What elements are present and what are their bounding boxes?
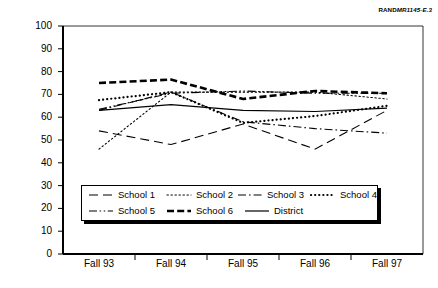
legend-item-school-1: School 1 bbox=[88, 187, 155, 203]
legend-line-swatch bbox=[310, 189, 336, 201]
series-lines-group bbox=[99, 80, 387, 150]
legend-line-swatch bbox=[237, 189, 263, 201]
series-line bbox=[99, 80, 387, 99]
series-line bbox=[99, 105, 387, 112]
legend-label: School 3 bbox=[267, 189, 304, 201]
legend-label: School 5 bbox=[118, 205, 155, 217]
figure-container: RANDMR1145-E.3 Median percentile rank (C… bbox=[0, 0, 438, 288]
legend-item-school-3: School 3 bbox=[237, 187, 304, 203]
legend-label: School 6 bbox=[196, 205, 233, 217]
axis-group bbox=[58, 26, 423, 260]
legend-line-swatch bbox=[166, 205, 192, 217]
legend-line-swatch bbox=[166, 189, 192, 201]
legend-label: School 1 bbox=[118, 189, 155, 201]
chart-legend: School 1School 2School 3School 4School 5… bbox=[81, 185, 378, 221]
legend-label: District bbox=[274, 205, 303, 217]
legend-label: School 2 bbox=[196, 189, 233, 201]
legend-line-swatch bbox=[88, 205, 114, 217]
series-line bbox=[99, 92, 387, 149]
legend-row: School 1School 2School 3School 4 bbox=[82, 187, 377, 203]
legend-item-school-2: School 2 bbox=[166, 187, 233, 203]
legend-row: School 5School 6District bbox=[82, 203, 377, 219]
series-line bbox=[99, 110, 387, 149]
legend-item-school-6: School 6 bbox=[166, 203, 233, 219]
legend-line-swatch bbox=[244, 205, 270, 217]
legend-line-swatch bbox=[88, 189, 114, 201]
legend-item-school-4: School 4 bbox=[310, 187, 377, 203]
legend-item-school-5: School 5 bbox=[88, 203, 155, 219]
legend-item-district: District bbox=[244, 203, 303, 219]
plot-area bbox=[0, 0, 438, 288]
legend-label: School 4 bbox=[340, 189, 377, 201]
